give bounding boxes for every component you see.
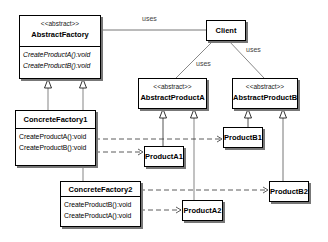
class-abstract-product-a[interactable]: <<abstract>> AbstractProductA bbox=[138, 78, 207, 109]
stereotype: <<abstract>> bbox=[233, 79, 297, 91]
class-name: ProductB1 bbox=[224, 133, 262, 142]
class-product-b1[interactable]: ProductB1 bbox=[223, 127, 263, 148]
class-concrete-factory-1[interactable]: ConcreteFactory1 CreateProductA():void C… bbox=[15, 110, 96, 166]
class-abstract-factory[interactable]: <<abstract>> AbstractFactory CreateProdu… bbox=[19, 15, 101, 79]
operations-compartment: CreateProductB():void CreateProductA():v… bbox=[61, 196, 140, 223]
class-name: ConcreteFactory2 bbox=[69, 185, 133, 194]
operation: CreateProductA():void bbox=[23, 49, 97, 60]
class-name: ProductB2 bbox=[270, 187, 308, 196]
association-client-product-a bbox=[176, 40, 214, 78]
class-product-a1[interactable]: ProductA1 bbox=[144, 146, 184, 167]
class-name: ConcreteFactory1 bbox=[24, 115, 88, 124]
class-name: AbstractProductB bbox=[233, 91, 297, 102]
class-name: AbstractProductA bbox=[139, 91, 206, 102]
class-name: ProductA1 bbox=[145, 152, 183, 161]
operation: CreateProductB():void bbox=[19, 142, 92, 153]
class-concrete-factory-2[interactable]: ConcreteFactory2 CreateProductB():void C… bbox=[60, 181, 141, 227]
operations-compartment: CreateProductA():void CreateProductB():v… bbox=[20, 46, 100, 73]
class-abstract-product-b[interactable]: <<abstract>> AbstractProductB bbox=[232, 78, 298, 109]
operation: CreateProductA():void bbox=[19, 131, 92, 142]
association-label-client-product-b: uses bbox=[246, 46, 261, 53]
operation: CreateProductB():void bbox=[64, 199, 137, 210]
class-client[interactable]: Client bbox=[206, 20, 246, 41]
class-name: ProductA2 bbox=[184, 206, 222, 215]
association-label-client-factory: uses bbox=[142, 15, 157, 22]
stereotype: <<abstract>> bbox=[139, 79, 206, 91]
class-name: AbstractFactory bbox=[20, 28, 100, 39]
association-label-client-product-a: uses bbox=[196, 60, 211, 67]
class-name: Client bbox=[216, 26, 237, 35]
class-product-a2[interactable]: ProductA2 bbox=[182, 200, 223, 221]
operation: CreateProductB():void bbox=[23, 60, 97, 71]
stereotype: <<abstract>> bbox=[20, 16, 100, 28]
operations-compartment: CreateProductA():void CreateProductB():v… bbox=[16, 128, 95, 155]
operation: CreateProductA():void bbox=[64, 210, 137, 221]
class-product-b2[interactable]: ProductB2 bbox=[269, 181, 309, 202]
